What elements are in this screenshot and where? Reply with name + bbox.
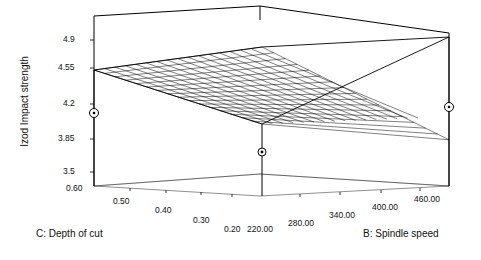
x-tick-280: 280.00	[288, 218, 314, 228]
floor-ticks	[130, 188, 420, 197]
y-axis-label: C: Depth of cut	[36, 228, 103, 239]
x-axis-label: B: Spindle speed	[363, 228, 439, 239]
z-tick-4-2: 4.2	[63, 98, 75, 108]
right-axis-marker	[445, 103, 454, 112]
x-tick-340: 340.00	[329, 210, 355, 220]
surface-plot-figure: Izod Impact strength	[0, 0, 481, 260]
y-tick-0-20: 0.20	[224, 224, 241, 234]
center-pin	[258, 124, 266, 196]
z-tick-4-9: 4.9	[63, 34, 75, 44]
z-tick-3-85: 3.85	[58, 133, 75, 143]
z-tick-4-55: 4.55	[58, 62, 75, 72]
y-tick-0-30: 0.30	[193, 215, 210, 225]
z-tick-3-5: 3.5	[63, 166, 75, 176]
x-tick-460: 460.00	[414, 194, 440, 204]
x-tick-220: 220.00	[247, 224, 273, 234]
y-tick-0-40: 0.40	[155, 205, 172, 215]
left-axis-marker	[90, 109, 99, 118]
y-tick-0-50: 0.50	[113, 196, 130, 206]
y-tick-0-60: 0.60	[66, 183, 83, 193]
x-tick-400: 400.00	[372, 202, 398, 212]
